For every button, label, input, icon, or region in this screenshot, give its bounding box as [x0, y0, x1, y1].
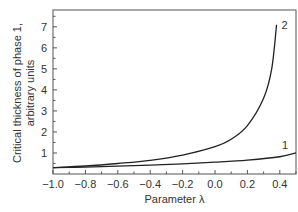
x-tick-label: −0.4: [139, 178, 161, 190]
plot-area: 1234567 −1.0−0.8−0.6−0.4−0.20.00.20.4 12: [0, 0, 298, 212]
plot-frame: [53, 10, 296, 174]
x-tick-label: −0.8: [75, 178, 97, 190]
series-line-2: [53, 25, 277, 168]
y-axis-label: Critical thickness of phase 1, arbitrary…: [4, 10, 44, 175]
y-axis-label-line2: arbitrary units: [24, 22, 37, 162]
series-lines: 12: [53, 19, 296, 168]
x-axis: −1.0−0.8−0.6−0.4−0.20.00.20.4: [42, 170, 296, 190]
y-axis-label-line1: Critical thickness of phase 1,: [11, 22, 24, 162]
x-tick-label: 0.0: [207, 178, 222, 190]
series-label-1: 1: [282, 139, 288, 151]
x-axis-label: Parameter λ: [53, 193, 296, 205]
x-tick-label: −0.6: [107, 178, 129, 190]
x-tick-label: −0.2: [172, 178, 194, 190]
x-tick-label: 0.2: [240, 178, 255, 190]
chart: 1234567 −1.0−0.8−0.6−0.4−0.20.00.20.4 12…: [0, 0, 298, 212]
x-tick-label: 0.4: [272, 178, 287, 190]
series-label-2: 2: [282, 19, 288, 31]
x-tick-label: −1.0: [42, 178, 64, 190]
